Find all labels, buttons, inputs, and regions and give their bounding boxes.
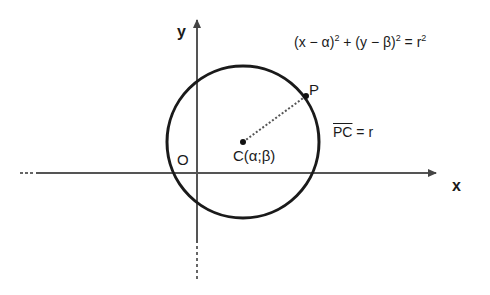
y-axis-label: y	[177, 24, 186, 40]
point-p-label: P	[309, 82, 319, 97]
segment-pc: PC	[333, 124, 352, 140]
equation-term-3: = r	[401, 34, 422, 50]
equation-term-2: + (y − β)	[339, 34, 395, 50]
radius-segment	[243, 96, 306, 142]
equation-exponent-3: 2	[421, 33, 426, 43]
origin-label: O	[177, 152, 189, 167]
center-label: C(α;β)	[233, 148, 275, 163]
center-point	[240, 139, 246, 145]
x-axis-label: x	[452, 178, 461, 194]
radius-equals: = r	[352, 124, 373, 140]
circle-equation: (x − α)2 + (y − β)2 = r2	[294, 34, 426, 49]
radius-relation: PC = r	[333, 125, 373, 139]
equation-term-1: (x − α)	[294, 34, 334, 50]
